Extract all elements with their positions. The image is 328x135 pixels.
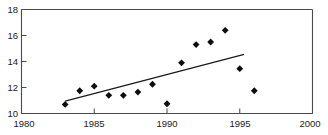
y-tick-marks <box>22 10 27 114</box>
y-tick-label: 16 <box>7 30 18 41</box>
data-point <box>62 101 69 108</box>
y-tick-label: 12 <box>7 82 18 93</box>
data-point <box>193 41 200 48</box>
trend-line <box>65 54 244 101</box>
data-point <box>207 39 214 46</box>
x-tick-labels: 1980 1985 1990 1995 2000 <box>13 118 320 129</box>
x-tick-label: 1995 <box>229 118 250 129</box>
data-point <box>120 92 127 99</box>
data-point <box>149 81 156 88</box>
data-point <box>222 27 229 34</box>
data-point <box>135 89 142 96</box>
chart-canvas: 10 12 14 16 18 1980 1985 1990 1995 2000 <box>0 0 328 135</box>
x-tick-label: 1980 <box>13 118 34 129</box>
x-tick-label: 2000 <box>299 118 320 129</box>
data-point-group <box>62 27 258 108</box>
data-point <box>251 87 258 94</box>
data-point <box>236 65 243 72</box>
y-tick-label: 14 <box>7 56 18 67</box>
data-point <box>105 92 112 99</box>
x-tick-label: 1990 <box>156 118 177 129</box>
x-tick-label: 1985 <box>83 118 104 129</box>
y-tick-labels: 10 12 14 16 18 <box>7 4 18 119</box>
data-point <box>164 100 171 107</box>
x-tick-marks <box>22 109 313 114</box>
y-tick-label: 18 <box>7 4 18 15</box>
scatter-chart: 10 12 14 16 18 1980 1985 1990 1995 2000 <box>0 0 328 135</box>
data-point <box>91 83 98 90</box>
plot-frame <box>22 10 313 114</box>
data-point <box>76 87 83 94</box>
data-point <box>178 59 185 66</box>
trend-line-group <box>65 54 244 101</box>
